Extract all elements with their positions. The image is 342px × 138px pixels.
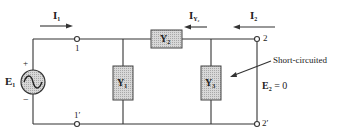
circuit-wiring [0, 0, 342, 138]
terminal-2 [255, 37, 260, 42]
current-i2-label: I2 [250, 10, 257, 22]
circuit-diagram: I1 IY₂ I2 1 1′ 2 2′ + − E1 Y1 Y2 Y3 Shor… [0, 0, 342, 138]
y3-label: Y3 [205, 78, 215, 89]
source-e1-label: E1 [5, 76, 15, 88]
terminal-2-prime-label: 2′ [262, 119, 268, 128]
arrow-right-icon [66, 24, 73, 29]
current-i1-label: I1 [53, 10, 60, 22]
terminal-2-label: 2 [263, 34, 268, 43]
terminal-2-prime [255, 122, 260, 127]
terminal-1-prime [75, 122, 80, 127]
arrow-left-icon [233, 25, 240, 30]
arrow-left-icon [184, 25, 191, 30]
source-plus-sign: + [23, 59, 28, 68]
e2-equals-zero-label: E2 = 0 [262, 81, 287, 92]
current-iy2-label: IY₂ [189, 10, 199, 22]
terminal-1-prime-label: 1′ [74, 111, 80, 120]
short-circuited-annotation: Short-circuited [273, 56, 327, 65]
terminal-1-label: 1 [75, 44, 80, 53]
y2-label: Y2 [160, 34, 170, 45]
source-minus-sign: − [23, 95, 29, 105]
y1-label: Y1 [117, 78, 127, 89]
terminal-1 [75, 37, 80, 42]
